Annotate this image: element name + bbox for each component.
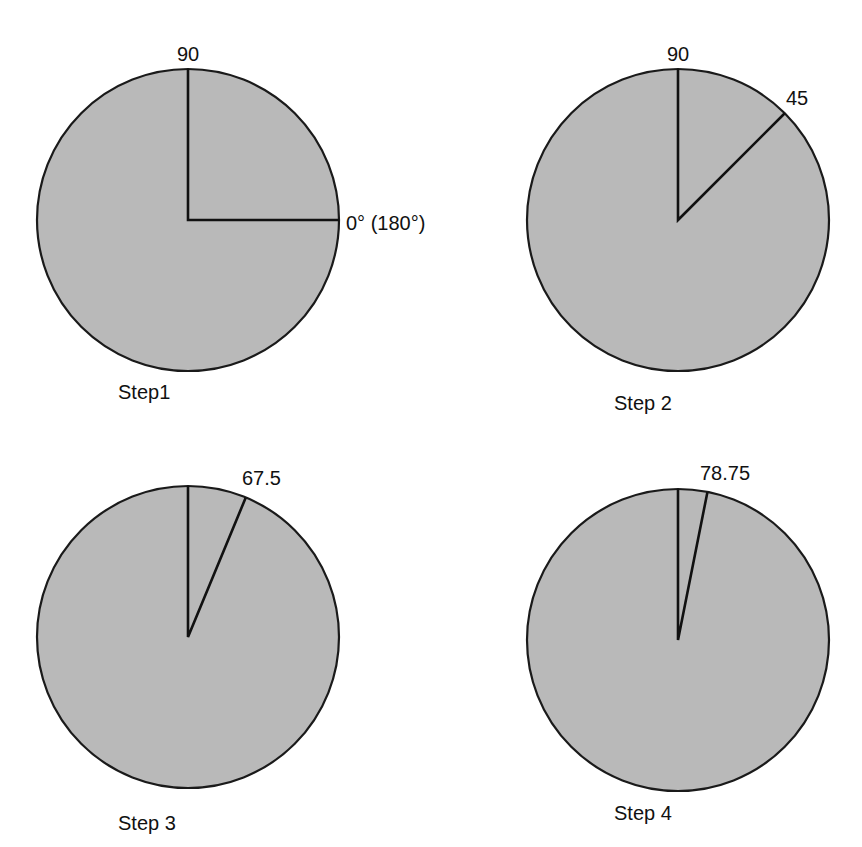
- angle-label: 45: [786, 87, 808, 109]
- panel-step3: 67.5Step 3: [37, 467, 339, 834]
- angle-label: 0° (180°): [346, 212, 425, 234]
- bisection-diagram: 900° (180°)Step19045Step 267.5Step 378.7…: [0, 0, 862, 847]
- panel-step2: 9045Step 2: [527, 43, 829, 414]
- angle-label: 90: [177, 43, 199, 65]
- angle-label: 78.75: [700, 462, 750, 484]
- step-caption: Step 3: [118, 812, 176, 834]
- panel-step1: 900° (180°)Step1: [37, 43, 425, 403]
- angle-label: 67.5: [242, 467, 281, 489]
- panel-step4: 78.75Step 4: [527, 462, 829, 824]
- step-caption: Step 2: [614, 392, 672, 414]
- step-caption: Step1: [118, 381, 170, 403]
- angle-label: 90: [667, 43, 689, 65]
- diagram-canvas: 900° (180°)Step19045Step 267.5Step 378.7…: [0, 0, 862, 847]
- step-caption: Step 4: [614, 802, 672, 824]
